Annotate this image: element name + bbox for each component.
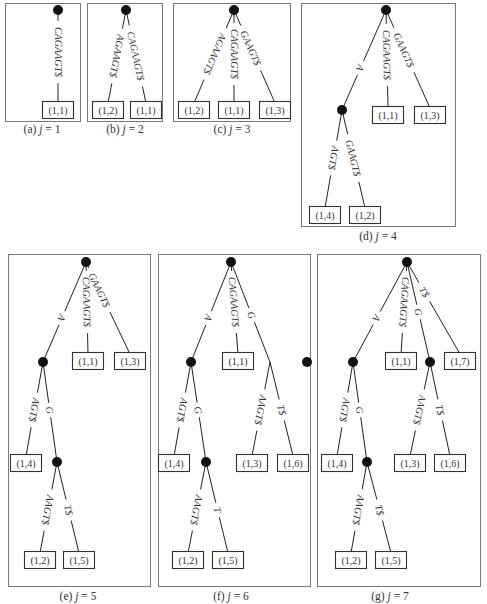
edge-label: CAGAAGT$	[397, 277, 411, 328]
panel-caption: (f) j = 6	[213, 590, 249, 603]
tree-edge	[353, 325, 373, 362]
internal-node	[186, 357, 196, 367]
edge-label: T$	[62, 504, 75, 517]
tree-edge	[71, 520, 79, 553]
tree-edge	[40, 531, 44, 553]
tree-edge	[351, 531, 355, 553]
tree-edge	[252, 431, 257, 456]
leaf-label: (1,4)	[315, 210, 334, 222]
tree-edge	[57, 462, 66, 500]
tree-edge	[430, 362, 438, 399]
tree-edge	[361, 417, 367, 462]
tree-edge	[236, 333, 238, 354]
tree-edge	[414, 72, 430, 108]
leaf-label: (1,3)	[242, 458, 261, 470]
tree-edge	[284, 420, 293, 456]
internal-node	[402, 257, 412, 267]
panel-d: ACAGAAGT$GAAGT$AGT$GAAGT$(1,1)(1,3)(1,4)…	[302, 4, 456, 244]
panel-caption: (b) j = 2	[106, 123, 144, 136]
edge-label: G	[412, 307, 424, 317]
edge-label: CAGAAGT$	[229, 29, 240, 79]
edge-label: T$	[417, 285, 432, 300]
leaf-label: (1,3)	[265, 105, 284, 117]
tree-edge	[26, 427, 31, 456]
edge-label: AGAAGT$	[108, 33, 127, 79]
edge-label: AGT$	[337, 396, 352, 422]
panel-g: ACAGAAGT$GT$AGT$GAAGT$T$AAGT$T$(1,1)(1,7…	[318, 255, 481, 604]
panel-b: AGAAGT$CAGAAGT$(1,2)(1,1)(b) j = 2	[88, 4, 163, 137]
internal-node	[226, 257, 236, 267]
tree-edge	[261, 70, 275, 103]
edge-label: AAGT$	[253, 393, 270, 426]
tree-edge	[174, 427, 179, 456]
edge-label: AAGT$	[411, 393, 428, 426]
panel-a: CAGAAGT$(1,1)(a) j = 1	[6, 4, 81, 137]
edge-label: A	[202, 312, 215, 324]
edge-label: A	[55, 312, 68, 324]
leaf-label: (1,2)	[98, 105, 117, 117]
edge-label: GAAGT$	[238, 29, 263, 68]
edge-label: G	[354, 406, 366, 415]
leaf-label: (1,1)	[48, 105, 67, 117]
tree-edge	[367, 462, 377, 500]
edge-label: AAGT$	[40, 493, 57, 525]
leaf-label: (1,2)	[184, 105, 203, 117]
internal-node	[201, 457, 211, 467]
leaf-label: (1,5)	[218, 555, 237, 567]
leaf-label: (1,2)	[355, 210, 374, 222]
internal-node	[302, 357, 312, 367]
panel-caption: (d) j = 4	[359, 230, 397, 243]
tree-edge	[188, 531, 192, 553]
tree-edge	[206, 462, 216, 503]
internal-node	[53, 5, 63, 15]
tree-edge	[442, 421, 450, 456]
edge-label: CAGAAGT$	[125, 30, 146, 81]
tree-edge	[265, 362, 270, 389]
panel-e: ACAGAAGT$GAAGT$AGT$GAAGT$T$(1,1)(1,3)(1,…	[9, 255, 151, 604]
edge-label: AGT$	[175, 396, 190, 422]
internal-node	[425, 357, 435, 367]
tree-edge	[219, 517, 228, 553]
edge-label: G	[44, 406, 56, 415]
leaf-label: (1,1)	[136, 105, 155, 117]
edge-label: G	[192, 406, 204, 415]
edge-label: AGAAGT$	[201, 31, 229, 76]
edge-label: CAGAAGT$	[381, 30, 393, 80]
tree-edge	[254, 322, 270, 362]
leaf-label: (1,3)	[420, 110, 439, 122]
edge-label: GAAGT$	[344, 139, 363, 178]
internal-node	[81, 257, 91, 267]
tree-edge	[142, 87, 146, 103]
leaf-label: (1,4)	[327, 458, 346, 470]
leaf-label: (1,6)	[440, 458, 459, 470]
tree-edge	[410, 431, 415, 456]
internal-node	[229, 5, 239, 15]
edge-label: AGT$	[27, 396, 42, 422]
tree-edge	[110, 312, 130, 354]
tree-edge	[337, 427, 342, 456]
panel-caption: (e) j = 5	[60, 590, 97, 603]
edge-label: AAGT$	[351, 493, 367, 525]
tree-edge	[359, 182, 365, 208]
leaf-label: (1,4)	[16, 458, 35, 470]
leaf-label: (1,1)	[78, 356, 97, 368]
tree-edge	[108, 83, 112, 103]
leaf-label: (1,3)	[400, 458, 419, 470]
leaf-label: (1,2)	[178, 555, 197, 567]
internal-node	[38, 357, 48, 367]
tree-edge	[43, 325, 59, 362]
panel-caption: (a) j = 1	[24, 123, 61, 136]
internal-node	[348, 357, 358, 367]
edge-label: AAGT$	[188, 493, 205, 526]
suffix-tree-figure: CAGAAGT$(1,1)(a) j = 1AGAAGT$CAGAAGT$(1,…	[0, 0, 487, 604]
edge-label: T$	[434, 404, 447, 417]
edge-label: T$	[275, 404, 288, 417]
edge-label: AGT$	[326, 144, 341, 170]
edge-label: A	[370, 312, 383, 324]
leaf-label: (1,2)	[30, 555, 49, 567]
tree-edge	[342, 75, 357, 110]
panel-f: ACAGAAGT$GAGT$GAAGT$T$AAGT$T(1,1)(1,4)(1…	[159, 255, 313, 604]
tree-edge	[270, 362, 279, 400]
tree-edge	[51, 417, 57, 462]
tree-edge	[191, 325, 206, 362]
